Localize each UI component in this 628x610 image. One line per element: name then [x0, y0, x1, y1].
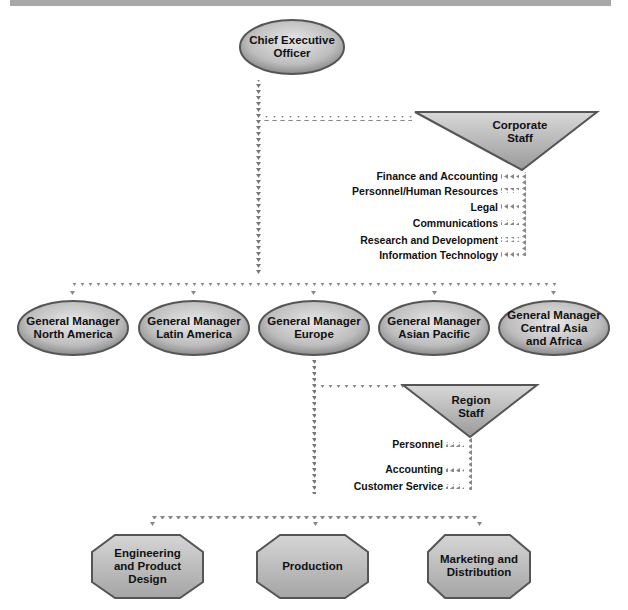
corporate-function-item: Research and Development	[360, 234, 498, 246]
dept-label: Engineering	[114, 547, 180, 559]
corporate-staff-connector	[262, 116, 412, 121]
region-function-item: Accounting	[385, 463, 443, 475]
departments-horizontal-connector	[150, 514, 480, 519]
ceo-label-line1: Chief Executive	[249, 34, 335, 46]
ceo-vertical-connector	[256, 80, 262, 276]
gm-label: General Manager	[147, 315, 240, 327]
gm-europe-node: General ManagerEurope	[259, 310, 369, 346]
dept-label: Marketing and	[440, 553, 518, 565]
gm-label: General Manager	[26, 315, 119, 327]
region-staff-connector	[316, 385, 416, 390]
dept-production-node: Production	[257, 540, 368, 592]
region-function-item: Customer Service	[354, 480, 443, 492]
corporate-staff-node: CorporateStaff	[480, 116, 560, 148]
gm-latin-america-node: General ManagerLatin America	[139, 310, 249, 346]
dept-label: Design	[128, 573, 166, 585]
gm-region-label: Europe	[294, 328, 334, 340]
corporate-staff-label-line2: Staff	[507, 132, 533, 144]
corporate-function-item: Personnel/Human Resources	[352, 185, 498, 197]
corporate-function-item: Finance and Accounting	[376, 170, 498, 182]
dept-label: and Product	[114, 560, 181, 572]
gm-region-label: Central Asia	[521, 322, 588, 334]
gm-label: General Manager	[507, 309, 600, 321]
gm-horizontal-connector	[70, 283, 560, 288]
gm-label: General Manager	[387, 315, 480, 327]
dept-label: Production	[282, 560, 343, 572]
gm-region-label: Latin America	[156, 328, 232, 340]
gm-north-america-node: General ManagerNorth America	[18, 310, 128, 346]
region-staff-label-line1: Region	[452, 394, 491, 406]
dept-label: Distribution	[447, 566, 512, 578]
region-function-item: Personnel	[392, 438, 443, 450]
corporate-function-item: Legal	[471, 201, 498, 213]
dept-engineering-node: Engineeringand ProductDesign	[92, 540, 203, 592]
ceo-node: Chief ExecutiveOfficer	[240, 30, 344, 64]
gm-region-label: North America	[34, 328, 113, 340]
gm-region-label-line3: and Africa	[526, 335, 582, 347]
ceo-label-line2: Officer	[273, 47, 310, 59]
connector-layer	[0, 0, 628, 610]
corporate-functions-vertical	[522, 172, 527, 256]
region-staff-node: RegionStaff	[436, 392, 506, 422]
region-staff-label-line2: Staff	[458, 407, 484, 419]
dept-marketing-node: Marketing andDistribution	[428, 540, 530, 592]
gm-label: General Manager	[267, 315, 360, 327]
gm-region-label: Asian Pacific	[398, 328, 470, 340]
corporate-function-item: Information Technology	[379, 249, 498, 261]
corporate-staff-label-line1: Corporate	[493, 119, 548, 131]
gm-central-asia-africa-node: General ManagerCentral Asiaand Africa	[499, 306, 609, 350]
gm-asian-pacific-node: General ManagerAsian Pacific	[379, 310, 489, 346]
corporate-function-item: Communications	[413, 217, 498, 229]
europe-vertical-connector	[310, 358, 316, 494]
